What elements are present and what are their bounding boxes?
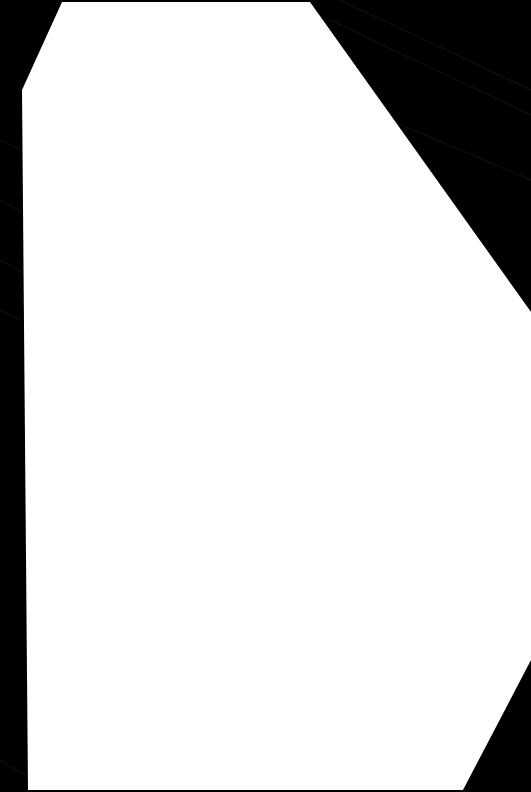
photo-scene: Blank white sheet of paper photographed … xyxy=(0,0,531,792)
photo-canvas xyxy=(0,0,531,792)
